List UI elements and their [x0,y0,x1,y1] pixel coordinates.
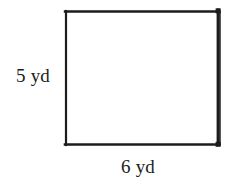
side-label-bottom: 6 yd [121,157,155,176]
rectangle-bottom-right-corner [216,142,221,147]
rectangle-diagram-canvas: 5 yd 6 yd [0,0,237,194]
rectangle-top-right-corner [216,8,221,13]
rectangle-figure [0,0,237,194]
side-label-left: 5 yd [16,66,50,85]
